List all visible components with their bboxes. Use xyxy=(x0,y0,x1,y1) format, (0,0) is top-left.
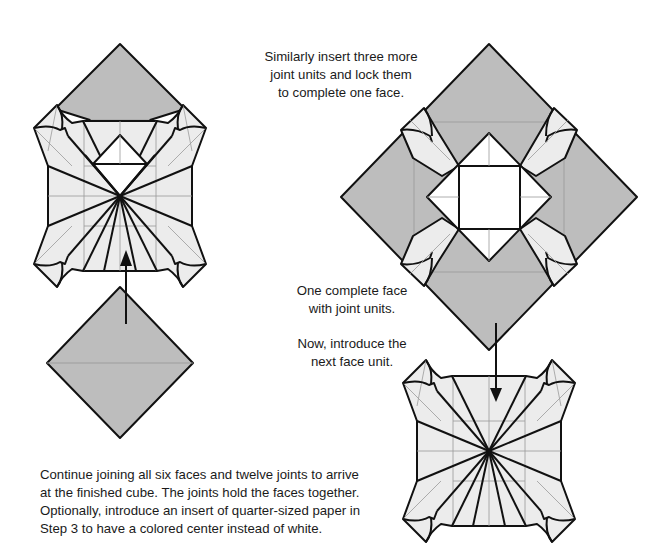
caption-next-face: Now, introduce the next face unit. xyxy=(287,335,417,371)
left-step-figure xyxy=(34,44,206,438)
caption-final-instruction: Continue joining all six faces and twelv… xyxy=(40,466,380,538)
bottom-joint-unit xyxy=(47,287,193,438)
caption-step-instruction: Similarly insert three more joint units … xyxy=(252,48,430,102)
next-face-figure xyxy=(403,360,575,542)
caption-complete-face: One complete face with joint units. xyxy=(287,282,417,318)
origami-diagram: Similarly insert three more joint units … xyxy=(0,0,670,547)
white-center-square xyxy=(459,166,520,229)
